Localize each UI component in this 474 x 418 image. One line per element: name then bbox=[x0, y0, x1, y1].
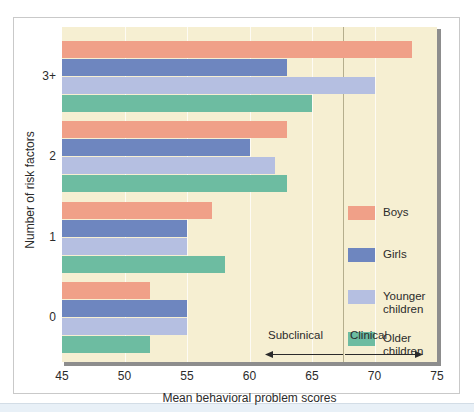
clinical-arrow-icon bbox=[345, 350, 423, 359]
y-axis-title: Number of risk factors bbox=[23, 90, 37, 290]
legend-label: Boys bbox=[383, 206, 409, 219]
bar bbox=[62, 95, 312, 112]
subclinical-label: Subclinical bbox=[268, 329, 323, 341]
y-axis-tick-label: 0 bbox=[20, 310, 56, 324]
legend-item: Girls bbox=[348, 248, 407, 262]
bar bbox=[62, 282, 150, 299]
bar bbox=[62, 300, 187, 317]
plot-shadow-bottom bbox=[64, 362, 441, 366]
x-axis-tick-label: 55 bbox=[167, 369, 207, 383]
bar bbox=[62, 318, 187, 335]
bar bbox=[62, 336, 150, 353]
legend-swatch bbox=[348, 248, 375, 262]
legend-swatch bbox=[348, 206, 375, 220]
legend-item: Boys bbox=[348, 206, 409, 220]
plot-shadow-right bbox=[437, 29, 441, 366]
subclinical-arrow-icon bbox=[265, 350, 343, 359]
legend-swatch bbox=[348, 290, 375, 304]
bar bbox=[62, 41, 412, 58]
legend-label: Girls bbox=[383, 248, 407, 261]
x-axis-tick-label: 45 bbox=[42, 369, 82, 383]
bar bbox=[62, 77, 375, 94]
bar bbox=[62, 202, 212, 219]
bar bbox=[62, 256, 225, 273]
bar bbox=[62, 238, 187, 255]
bar bbox=[62, 121, 287, 138]
x-axis-tick-label: 75 bbox=[417, 369, 457, 383]
x-axis-tick-label: 50 bbox=[105, 369, 145, 383]
legend-item: Younger children bbox=[348, 290, 425, 316]
y-axis-tick-label: 3+ bbox=[20, 69, 56, 83]
bar bbox=[62, 157, 275, 174]
bar bbox=[62, 220, 187, 237]
clinical-label: Clinical bbox=[350, 329, 387, 341]
x-axis-tick-label: 60 bbox=[230, 369, 270, 383]
x-axis-tick-label: 65 bbox=[292, 369, 332, 383]
legend-label: Younger children bbox=[383, 290, 425, 316]
page-bottom-strip bbox=[0, 404, 474, 412]
x-axis-tick-label: 70 bbox=[355, 369, 395, 383]
x-axis-title: Mean behavioral problem scores bbox=[62, 391, 437, 405]
bar bbox=[62, 59, 287, 76]
bar bbox=[62, 139, 250, 156]
bar bbox=[62, 175, 287, 192]
